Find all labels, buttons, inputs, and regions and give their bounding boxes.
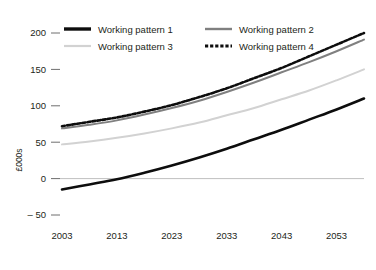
x-tick-label: 2053 [326, 230, 347, 241]
legend-label: Working pattern 3 [98, 41, 173, 52]
legend-label: Working pattern 1 [98, 24, 173, 35]
y-tick-label: 150 [30, 64, 46, 75]
legend-label: Working pattern 2 [239, 24, 314, 35]
x-tick-label: 2023 [161, 230, 182, 241]
y-tick-label: 200 [30, 27, 46, 38]
x-tick-label: 2003 [51, 230, 72, 241]
y-tick-label: 50 [35, 137, 46, 148]
chart-container: 200150100500– 50 20032013202320332043205… [0, 0, 376, 270]
y-tick-label: 0 [41, 173, 46, 184]
line-chart: 200150100500– 50 20032013202320332043205… [0, 0, 376, 270]
x-tick-label: 2013 [106, 230, 127, 241]
x-tick-label: 2043 [271, 230, 292, 241]
y-tick-label: – 50 [28, 209, 47, 220]
legend-label: Working pattern 4 [239, 41, 314, 52]
y-tick-label: 100 [30, 100, 46, 111]
x-tick-label: 2033 [216, 230, 237, 241]
y-axis-title: £000s [14, 148, 24, 171]
